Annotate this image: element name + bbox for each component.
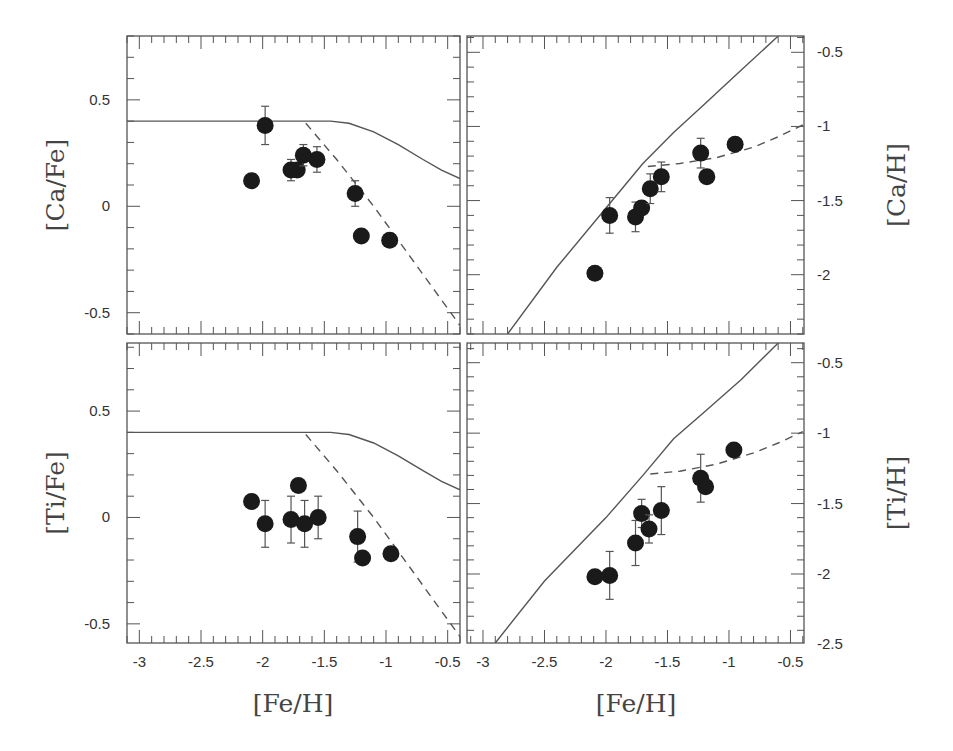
x-tick-label: -0.5 xyxy=(778,653,804,670)
y-tick-label: 0 xyxy=(102,508,110,525)
data-point xyxy=(725,442,742,459)
data-point xyxy=(243,493,260,510)
y-tick-label: -1 xyxy=(817,117,830,134)
y-tick-label: 0.5 xyxy=(89,402,110,419)
y-tick-label: -1 xyxy=(817,424,830,441)
y-tick-label: 0.5 xyxy=(89,91,110,108)
data-point xyxy=(354,549,371,566)
x-tick-label: -1.5 xyxy=(311,653,337,670)
y-tick-label: -2.5 xyxy=(817,635,843,652)
data-point xyxy=(633,505,650,522)
data-point xyxy=(310,509,327,526)
xlabel-right: [Fe/H] xyxy=(596,689,677,718)
data-point xyxy=(627,535,644,552)
data-point xyxy=(586,265,603,282)
data-point xyxy=(347,185,364,202)
model-curve-dashed xyxy=(306,435,460,637)
data-point xyxy=(349,528,366,545)
abundance-figure: -0.500.5 -2-1.5-1-0.5 -3-2.5-2-1.5-1-0.5… xyxy=(0,0,953,751)
ylabel-ca-h: [Ca/H] xyxy=(882,143,911,227)
model-curve-dashed xyxy=(306,123,460,325)
ylabel-ti-fe: [Ti/Fe] xyxy=(41,451,70,534)
data-point xyxy=(382,545,399,562)
ylabel-ti-h: [Ti/H] xyxy=(882,456,911,530)
data-point xyxy=(601,207,618,224)
xlabel-left: [Fe/H] xyxy=(253,689,334,718)
data-point xyxy=(308,151,325,168)
data-point xyxy=(243,172,260,189)
data-point xyxy=(641,520,658,537)
data-point xyxy=(692,145,709,162)
y-tick-label: -0.5 xyxy=(84,615,110,632)
data-point xyxy=(257,515,274,532)
panel-ca-h: -2-1.5-1-0.5 xyxy=(467,36,843,334)
plot-frame xyxy=(467,343,804,643)
x-tick-label: -3 xyxy=(476,653,489,670)
x-tick-label: -1.5 xyxy=(655,653,681,670)
data-point xyxy=(653,168,670,185)
data-point xyxy=(653,502,670,519)
y-tick-label: -2 xyxy=(817,565,830,582)
plot-frame xyxy=(467,36,804,334)
data-point xyxy=(697,478,714,495)
x-tick-label: -2 xyxy=(256,653,269,670)
data-point xyxy=(586,568,603,585)
y-tick-label: -0.5 xyxy=(817,43,843,60)
x-tick-label: -2.5 xyxy=(532,653,558,670)
data-point xyxy=(353,228,370,245)
panel-ca-fe: -0.500.5 xyxy=(84,36,460,334)
data-point xyxy=(633,199,650,216)
model-curve-dashed xyxy=(648,125,803,167)
panel-ti-h: -3-2.5-2-1.5-1-0.5-2.5-2-1.5-1-0.5 xyxy=(467,343,843,670)
y-tick-label: 0 xyxy=(102,197,110,214)
data-point xyxy=(727,136,744,153)
plot-frame xyxy=(127,36,460,334)
data-point xyxy=(698,168,715,185)
y-tick-label: -1.5 xyxy=(817,192,843,209)
x-tick-label: -1 xyxy=(379,653,392,670)
plot-frame xyxy=(127,343,460,643)
y-tick-label: -0.5 xyxy=(84,304,110,321)
panel-ti-fe: -3-2.5-2-1.5-1-0.5-0.500.5 xyxy=(84,343,460,670)
data-point xyxy=(257,117,274,134)
x-tick-label: -3 xyxy=(133,653,146,670)
x-tick-label: -2.5 xyxy=(188,653,214,670)
x-tick-label: -0.5 xyxy=(435,653,461,670)
model-curve-solid xyxy=(495,343,778,643)
y-tick-label: -1.5 xyxy=(817,495,843,512)
data-point xyxy=(601,567,618,584)
y-tick-label: -2 xyxy=(817,266,830,283)
y-tick-label: -0.5 xyxy=(817,354,843,371)
x-tick-label: -2 xyxy=(599,653,612,670)
data-point xyxy=(381,232,398,249)
x-tick-label: -1 xyxy=(722,653,735,670)
ylabel-ca-fe: [Ca/Fe] xyxy=(41,139,70,232)
data-point xyxy=(290,477,307,494)
